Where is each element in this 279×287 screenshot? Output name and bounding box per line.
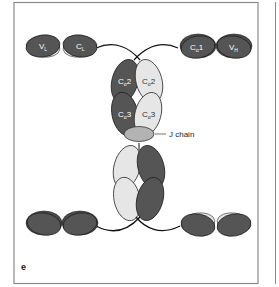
j-chain-ellipse: [124, 127, 154, 142]
panel-letter: e: [21, 262, 26, 272]
j-chain-label: J chain: [169, 130, 194, 139]
diagram-panel: VL CL Cα1 VH Cα2 Cα2 Cα3 Cα3 J chain: [0, 0, 279, 287]
iga-dimer-diagram: VL CL Cα1 VH Cα2 Cα2 Cα3 Cα3 J chain: [0, 0, 279, 287]
